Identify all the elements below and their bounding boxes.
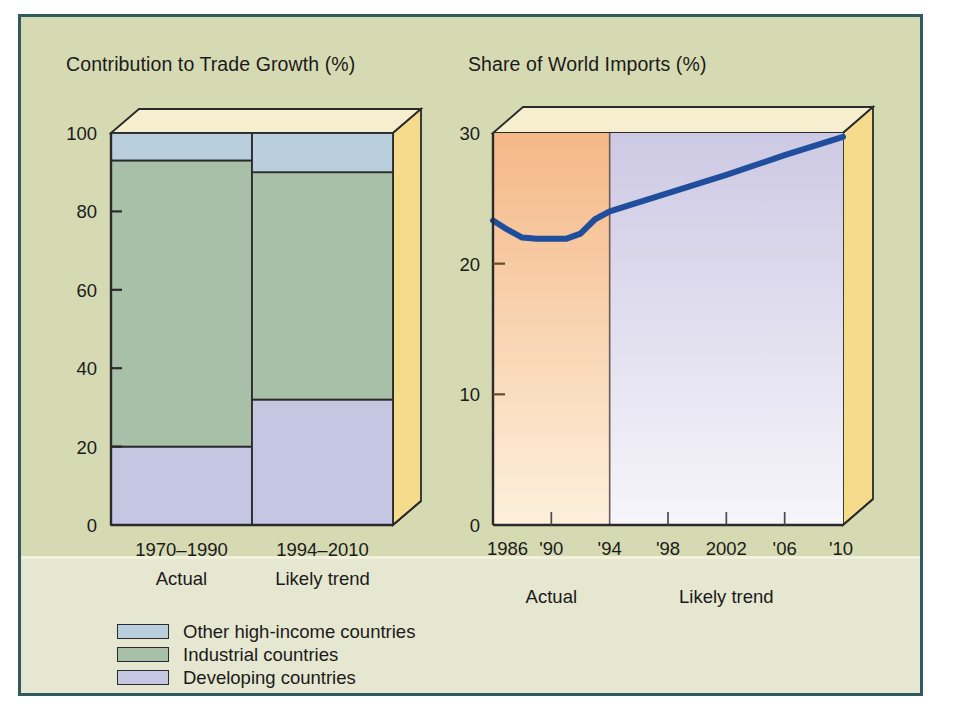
x-category-label-left: 1994–2010 bbox=[276, 539, 369, 560]
legend-swatch-industrial bbox=[117, 647, 169, 662]
y-tick-label-right: 10 bbox=[459, 384, 480, 405]
bar-segment bbox=[252, 400, 393, 525]
x-category-label-left: 1970–1990 bbox=[135, 539, 228, 560]
bar-segment bbox=[111, 133, 252, 160]
legend-label-industrial: Industrial countries bbox=[183, 644, 338, 666]
figure-frame: Contribution to Trade Growth (%) 0204060… bbox=[18, 14, 923, 696]
x-tick-label-right: '94 bbox=[598, 538, 622, 559]
legend-swatch-other-high-income bbox=[117, 624, 169, 639]
chart-share-of-world-imports: Share of World Imports (%) 01020301986'9… bbox=[451, 17, 926, 577]
chart-right-top-face bbox=[493, 107, 873, 133]
y-tick-label-left: 80 bbox=[76, 201, 97, 222]
x-tick-label-right: '06 bbox=[773, 538, 797, 559]
chart-left-top-face bbox=[111, 109, 421, 133]
x-tick-label-right: 1986 bbox=[487, 538, 528, 559]
x-tick-label-right: '10 bbox=[829, 538, 853, 559]
y-tick-label-left: 60 bbox=[76, 280, 97, 301]
y-tick-label-left: 40 bbox=[76, 358, 97, 379]
x-category-sublabel-left: Likely trend bbox=[275, 568, 370, 589]
chart-left-canvas: 0204060801001970–1990Actual1994–2010Like… bbox=[21, 17, 471, 577]
y-tick-label-right: 0 bbox=[470, 515, 480, 536]
y-tick-label-left: 20 bbox=[76, 437, 97, 458]
chart-right-side-face bbox=[843, 107, 873, 525]
legend-label-developing: Developing countries bbox=[183, 667, 356, 689]
x-tick-label-right: '98 bbox=[656, 538, 680, 559]
y-tick-label-left: 0 bbox=[87, 515, 97, 536]
y-tick-label-left: 100 bbox=[66, 123, 97, 144]
x-category-sublabel-left: Actual bbox=[156, 568, 207, 589]
bar-segment bbox=[252, 172, 393, 399]
x-tick-label-right: '90 bbox=[539, 538, 563, 559]
region-caption-likely-trend: Likely trend bbox=[679, 586, 774, 607]
bar-segment bbox=[252, 133, 393, 172]
chart-right-canvas: 01020301986'90'94'982002'06'10ActualLike… bbox=[451, 17, 926, 577]
legend-label-other-high-income: Other high-income countries bbox=[183, 621, 415, 643]
region-caption-actual: Actual bbox=[526, 586, 577, 607]
legend-swatch-developing bbox=[117, 670, 169, 685]
bar-segment bbox=[111, 160, 252, 446]
region-likely-trend bbox=[610, 133, 843, 525]
bar-segment bbox=[111, 447, 252, 525]
region-actual bbox=[493, 133, 610, 525]
chart-left-side-face bbox=[393, 109, 421, 525]
y-tick-label-right: 30 bbox=[459, 123, 480, 144]
x-tick-label-right: 2002 bbox=[706, 538, 747, 559]
chart-contribution-to-trade-growth: Contribution to Trade Growth (%) 0204060… bbox=[21, 17, 471, 577]
y-tick-label-right: 20 bbox=[459, 254, 480, 275]
